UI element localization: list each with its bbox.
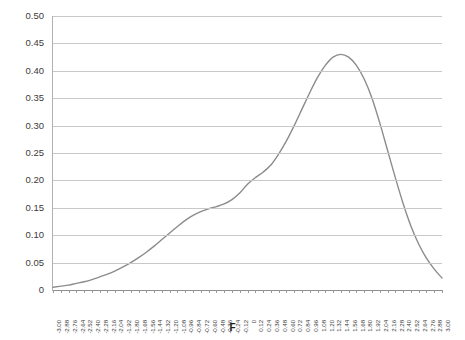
x-tick-mark [388, 290, 389, 293]
x-tick-mark [131, 290, 132, 293]
y-tick-label: 0.15 [26, 203, 45, 213]
x-tick-mark [325, 290, 326, 293]
x-tick-mark [395, 290, 396, 293]
y-tick-label: 0.30 [26, 121, 45, 131]
chart-container: 00.050.100.150.200.250.300.350.400.450.5… [0, 0, 465, 340]
x-tick-mark [333, 290, 334, 293]
y-tick-label: 0.45 [26, 38, 45, 48]
x-tick-mark [115, 290, 116, 293]
x-tick-mark [107, 290, 108, 293]
x-tick-mark [372, 290, 373, 293]
x-tick-mark [426, 290, 427, 293]
y-tick-label: 0.40 [26, 66, 45, 76]
y-tick-label: 0.50 [26, 11, 45, 21]
x-tick-mark [177, 290, 178, 293]
y-tick-label: 0.35 [26, 93, 45, 103]
gridline [53, 180, 442, 181]
x-tick-mark [411, 290, 412, 293]
plot-area [53, 16, 442, 290]
x-tick-mark [279, 290, 280, 293]
x-tick-mark [139, 290, 140, 293]
x-tick-mark [349, 290, 350, 293]
x-tick-mark [216, 290, 217, 293]
x-tick-mark [356, 290, 357, 293]
x-tick-mark [53, 290, 54, 293]
y-tick-label: 0 [39, 285, 44, 295]
x-tick-mark [154, 290, 155, 293]
x-tick-mark [170, 290, 171, 293]
y-tick-label: 0.20 [26, 175, 45, 185]
x-tick-mark [286, 290, 287, 293]
gridline [53, 43, 442, 44]
gridline [53, 208, 442, 209]
x-tick-mark [318, 290, 319, 293]
x-tick-mark [201, 290, 202, 293]
x-tick-mark [263, 290, 264, 293]
x-tick-mark [123, 290, 124, 293]
x-tick-mark [100, 290, 101, 293]
gridline [53, 126, 442, 127]
y-tick-label: 0.25 [26, 148, 45, 158]
y-axis: 00.050.100.150.200.250.300.350.400.450.5… [0, 0, 48, 300]
x-tick-mark [224, 290, 225, 293]
gridline [53, 153, 442, 154]
gridline [53, 98, 442, 99]
x-tick-mark [185, 290, 186, 293]
gridline [53, 16, 442, 17]
x-axis-title: F [0, 322, 465, 333]
x-tick-mark [146, 290, 147, 293]
x-tick-mark [341, 290, 342, 293]
x-tick-mark [434, 290, 435, 293]
x-tick-mark [248, 290, 249, 293]
x-tick-mark [255, 290, 256, 293]
x-tick-mark [310, 290, 311, 293]
gridline [53, 263, 442, 264]
y-tick-label: 0.05 [26, 258, 45, 268]
x-tick-mark [419, 290, 420, 293]
x-tick-mark [442, 290, 443, 293]
x-tick-mark [302, 290, 303, 293]
x-axis: -3.00-2.88-2.76-2.64-2.52-2.40-2.28-2.16… [53, 294, 442, 322]
x-tick-mark [92, 290, 93, 293]
x-tick-mark [364, 290, 365, 293]
x-tick-mark [162, 290, 163, 293]
x-tick-mark [240, 290, 241, 293]
x-tick-mark [193, 290, 194, 293]
x-tick-mark [380, 290, 381, 293]
x-tick-mark [294, 290, 295, 293]
x-tick-mark [209, 290, 210, 293]
x-tick-mark [232, 290, 233, 293]
gridline [53, 235, 442, 236]
x-tick-mark [61, 290, 62, 293]
x-tick-mark [69, 290, 70, 293]
x-tick-mark [403, 290, 404, 293]
y-tick-label: 0.10 [26, 230, 45, 240]
x-tick-mark [271, 290, 272, 293]
x-tick-mark [84, 290, 85, 293]
x-tick-mark [76, 290, 77, 293]
gridline [53, 71, 442, 72]
